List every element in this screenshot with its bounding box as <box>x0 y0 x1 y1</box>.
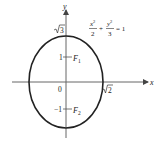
tick-label-y-one: 1 <box>59 53 63 62</box>
tick-label-y-minus-one: −1 <box>54 105 62 114</box>
eq-equals: = 1 <box>116 25 126 33</box>
focus-label-f2: F2 <box>72 106 81 116</box>
eq-term2-num: y2 <box>106 19 112 28</box>
focus-f1-sub: 1 <box>78 58 81 64</box>
y-axis-label: y <box>62 2 67 11</box>
tick-label-y-top: 3 <box>60 26 64 35</box>
focus-label-f1: F1 <box>72 54 81 64</box>
focus-f2-sub: 2 <box>78 110 81 116</box>
tick-label-origin: 0 <box>58 85 62 94</box>
label-sqrt3: 3 <box>54 25 65 35</box>
ellipse-equation: x2 2 + y2 3 = 1 <box>89 19 126 38</box>
tick-label-x-right: 2 <box>108 86 112 95</box>
eq-term2-den: 3 <box>108 30 112 38</box>
ellipse-diagram: x y 3 2 0 1 −1 F1 F2 x2 2 + y2 3 = 1 <box>0 0 158 145</box>
eq-term1-num: x2 <box>89 19 95 28</box>
x-axis-label: x <box>149 78 154 87</box>
eq-plus: + <box>99 25 103 33</box>
eq-term1-den: 2 <box>91 30 95 38</box>
